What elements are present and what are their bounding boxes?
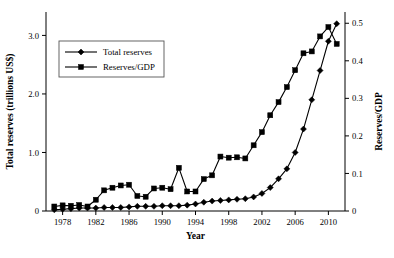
x-axis-tick-label: 1986: [120, 217, 138, 227]
data-point-marker: [102, 188, 107, 193]
data-point-marker: [77, 202, 82, 207]
y2-axis-tick-label: 0: [352, 206, 356, 216]
legend-label: Reserves/GDP: [103, 62, 155, 72]
data-point-marker: [251, 143, 256, 148]
data-point-marker: [93, 197, 98, 202]
data-point-marker: [309, 49, 314, 54]
data-point-marker: [301, 51, 306, 56]
data-point-marker: [143, 194, 148, 199]
data-point-marker: [85, 204, 90, 209]
y2-axis-tick-label: 0.4: [352, 56, 363, 66]
y2-axis-title: Reserves/GDP: [374, 92, 384, 151]
x-axis-title: Year: [186, 231, 206, 241]
data-point-marker: [268, 113, 273, 118]
y2-axis-tick-label: 0.1: [352, 169, 363, 179]
y-axis-tick-label: 1.0: [28, 148, 39, 158]
data-point-marker: [243, 156, 248, 161]
x-axis-tick-label: 2010: [320, 217, 337, 227]
legend-marker-square-icon: [79, 65, 84, 70]
data-point-marker: [151, 186, 156, 191]
data-point-marker: [160, 185, 165, 190]
data-point-marker: [201, 177, 206, 182]
data-point-marker: [235, 155, 240, 160]
data-point-marker: [318, 34, 323, 39]
data-point-marker: [276, 100, 281, 105]
data-point-marker: [168, 187, 173, 192]
x-axis-tick-label: 2006: [287, 217, 305, 227]
data-point-marker: [334, 41, 339, 46]
x-axis-tick-label: 2002: [253, 217, 270, 227]
data-point-marker: [176, 165, 181, 170]
legend-label: Total reserves: [103, 47, 153, 57]
chart-canvas: 01.02.03.000.10.20.30.40.519781982198619…: [0, 0, 394, 258]
data-point-marker: [60, 203, 65, 208]
x-axis-tick-label: 1990: [154, 217, 171, 227]
y-axis-tick-label: 0: [35, 206, 39, 216]
data-point-marker: [193, 189, 198, 194]
data-point-marker: [110, 185, 115, 190]
y2-axis-tick-label: 0.5: [352, 18, 363, 28]
data-point-marker: [226, 155, 231, 160]
data-point-marker: [218, 154, 223, 159]
data-point-marker: [259, 130, 264, 135]
chart-figure: 01.02.03.000.10.20.30.40.519781982198619…: [0, 0, 394, 258]
data-point-marker: [326, 25, 331, 30]
y2-axis-tick-label: 0.3: [352, 93, 363, 103]
y-axis-title: Total reserves (trillions US$): [5, 54, 16, 170]
data-point-marker: [118, 183, 123, 188]
y2-axis-tick-label: 0.2: [352, 131, 363, 141]
data-point-marker: [284, 85, 289, 90]
data-point-marker: [210, 173, 215, 178]
x-axis-tick-label: 1998: [220, 217, 237, 227]
chart-legend[interactable]: Total reservesReserves/GDP: [59, 41, 164, 77]
data-point-marker: [68, 203, 73, 208]
data-point-marker: [293, 68, 298, 73]
x-axis-tick-label: 1982: [87, 217, 104, 227]
y-axis-tick-label: 2.0: [28, 89, 39, 99]
data-point-marker: [52, 204, 57, 209]
data-point-marker: [127, 182, 132, 187]
x-axis-tick-label: 1978: [54, 217, 71, 227]
data-point-marker: [135, 193, 140, 198]
y-axis-tick-label: 3.0: [28, 31, 39, 41]
x-axis-tick-label: 1994: [187, 217, 205, 227]
data-point-marker: [185, 189, 190, 194]
